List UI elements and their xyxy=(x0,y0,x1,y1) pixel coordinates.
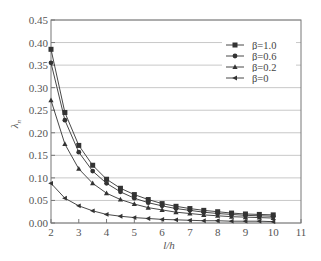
x-tick-label: 9 xyxy=(243,226,249,238)
legend-item: β=0 xyxy=(222,72,296,84)
y-axis-label: λn xyxy=(8,119,23,129)
legend: β=1.0β=0.6β=0.2β=0 xyxy=(222,39,296,84)
legend-label: β=1.0 xyxy=(252,40,276,51)
y-tick-label: 0.35 xyxy=(29,59,49,71)
y-tick-label: 0.40 xyxy=(29,37,49,49)
y-tick-label: 0.45 xyxy=(29,14,49,26)
legend-label: β=0 xyxy=(252,73,269,84)
legend-item: β=0.2 xyxy=(222,61,296,73)
x-tick-label: 2 xyxy=(48,226,54,238)
x-tick-label: 8 xyxy=(215,226,221,238)
legend-item: β=0.6 xyxy=(222,50,296,62)
y-tick-label: 0.05 xyxy=(29,194,49,206)
x-tick-label: 6 xyxy=(159,226,165,238)
y-tick-label: 0.30 xyxy=(29,82,49,94)
legend-item: β=1.0 xyxy=(222,39,296,51)
legend-label: β=0.2 xyxy=(252,62,276,73)
x-tick-label: 7 xyxy=(187,226,193,238)
line-chart: 0.000.050.100.150.200.250.300.350.400.45… xyxy=(0,0,321,261)
y-tick-label: 0.00 xyxy=(29,217,49,229)
legend-label: β=0.6 xyxy=(252,51,276,62)
svg-text:λn: λn xyxy=(8,119,23,129)
y-tick-label: 0.10 xyxy=(29,172,49,184)
x-tick-label: 4 xyxy=(104,226,110,238)
series-β=0.6 xyxy=(49,60,276,218)
x-tick-label: 3 xyxy=(76,226,82,238)
y-tick-label: 0.25 xyxy=(29,104,49,116)
x-tick-label: 11 xyxy=(296,226,307,238)
x-tick-label: 5 xyxy=(132,226,138,238)
y-tick-label: 0.15 xyxy=(29,149,49,161)
x-tick-label: 10 xyxy=(268,226,280,238)
y-tick-label: 0.20 xyxy=(29,127,49,139)
x-axis-label: l/h xyxy=(163,239,175,251)
